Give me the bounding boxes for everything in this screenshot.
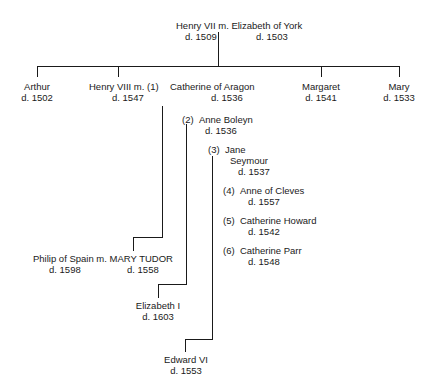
child-margaret: Margaret d. 1541 (296, 81, 346, 103)
child-death: d. 1541 (296, 92, 346, 103)
edward-drop-line (185, 339, 186, 352)
wife-number: (5) (223, 215, 235, 226)
child-arthur: Arthur d. 1502 (12, 81, 62, 103)
wife-catherine-of-aragon: Catherine of Aragon d. 1536 (170, 81, 255, 103)
wife-death: d. 1537 (208, 166, 270, 177)
child-name: Mary (374, 81, 424, 92)
elizabeth-of-york-death: d. 1503 (256, 31, 288, 42)
child-death: d. 1547 (89, 92, 159, 103)
elizabeth-drop-line (158, 284, 159, 298)
wife-name: Catherine of Aragon (170, 81, 255, 92)
philip-death: d. 1598 (33, 264, 127, 275)
wife-catherine-parr: (6) Catherine Parr d. 1548 (223, 245, 302, 267)
grandchild-death: d. 1553 (158, 365, 214, 376)
boleyn-descent-line (186, 124, 187, 285)
grandchild-death: d. 1603 (130, 311, 186, 322)
grandchild-death-row: d. 1598d. 1558 (33, 264, 173, 275)
wife-death: d. 1542 (223, 226, 316, 237)
wife-name: Anne Boleyn (199, 114, 253, 125)
aragon-elbow-line (133, 237, 163, 238)
wife-name: Catherine Parr (240, 245, 302, 256)
henry-viii-drop-line (118, 66, 119, 77)
child-mary: Mary d. 1533 (374, 81, 424, 103)
wife-catherine-howard: (5) Catherine Howard d. 1542 (223, 215, 316, 237)
wife-death: d. 1536 (182, 125, 253, 136)
wife-death: d. 1557 (223, 196, 304, 207)
henry-vii-death: d. 1509 (185, 31, 217, 42)
child-death: d. 1533 (374, 92, 424, 103)
child-death: d. 1502 (12, 92, 62, 103)
wife-name: Anne of Cleves (240, 185, 304, 196)
mary-tudor-drop-line (133, 237, 134, 251)
root-couple-label: Henry VII m. Elizabeth of York (176, 20, 302, 31)
wife-number: (6) (223, 245, 235, 256)
child-name: Margaret (296, 81, 346, 92)
grandchild-elizabeth-i: Elizabeth I d. 1603 (130, 300, 186, 322)
child-henry-viii: Henry VIII m. (1) d. 1547 (89, 81, 159, 103)
wife-anne-boleyn: (2) Anne Boleyn d. 1536 (182, 114, 253, 136)
grandchild-edward-vi: Edward VI d. 1553 (158, 354, 214, 376)
wife-name-line2: Seymour (208, 155, 270, 166)
mary-drop-line (399, 66, 400, 77)
wife-name: Jane (225, 144, 246, 155)
grandchild-name: Philip of Spain m. MARY TUDOR (33, 253, 173, 264)
wife-jane-seymour: (3) Jane Seymour d. 1537 (208, 144, 270, 177)
margaret-drop-line (321, 66, 322, 77)
wife-name: Catherine Howard (240, 215, 317, 226)
grandchild-name: Edward VI (158, 354, 214, 365)
root-descent-line (218, 32, 219, 67)
seymour-elbow-line (185, 339, 213, 340)
child-name: Arthur (12, 81, 62, 92)
grandchild-mary-tudor: Philip of Spain m. MARY TUDOR d. 1598d. … (33, 253, 173, 275)
aragon-descent-line (162, 106, 163, 238)
mary-tudor-death: d. 1558 (127, 264, 159, 275)
wife-death: d. 1536 (170, 92, 255, 103)
wife-number: (2) (182, 114, 194, 125)
arthur-drop-line (37, 66, 38, 77)
boleyn-elbow-line (158, 284, 187, 285)
wife-number: (3) (208, 144, 220, 155)
children-sibling-line (37, 66, 400, 67)
wife-number: (4) (223, 185, 235, 196)
wife-death: d. 1548 (223, 256, 302, 267)
seymour-descent-line (212, 156, 213, 340)
wife-anne-of-cleves: (4) Anne of Cleves d. 1557 (223, 185, 304, 207)
grandchild-name: Elizabeth I (130, 300, 186, 311)
child-name: Henry VIII m. (1) (89, 81, 159, 92)
